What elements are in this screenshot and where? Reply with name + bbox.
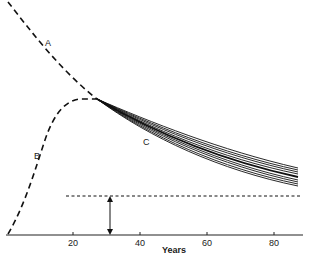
tick-label-80: 80 <box>269 238 279 248</box>
tick-label-60: 60 <box>202 238 212 248</box>
curve-b <box>8 99 97 234</box>
tick-label-20: 20 <box>68 238 78 248</box>
label-b: B <box>34 151 40 161</box>
label-c: C <box>143 137 150 147</box>
tick-label-40: 40 <box>135 238 145 248</box>
label-a: A <box>45 38 51 48</box>
curve-a <box>8 2 97 99</box>
x-axis-title: Years <box>162 245 186 255</box>
curve-c-band <box>97 99 298 186</box>
chart: 20 40 60 80 Years A B C <box>0 0 309 257</box>
